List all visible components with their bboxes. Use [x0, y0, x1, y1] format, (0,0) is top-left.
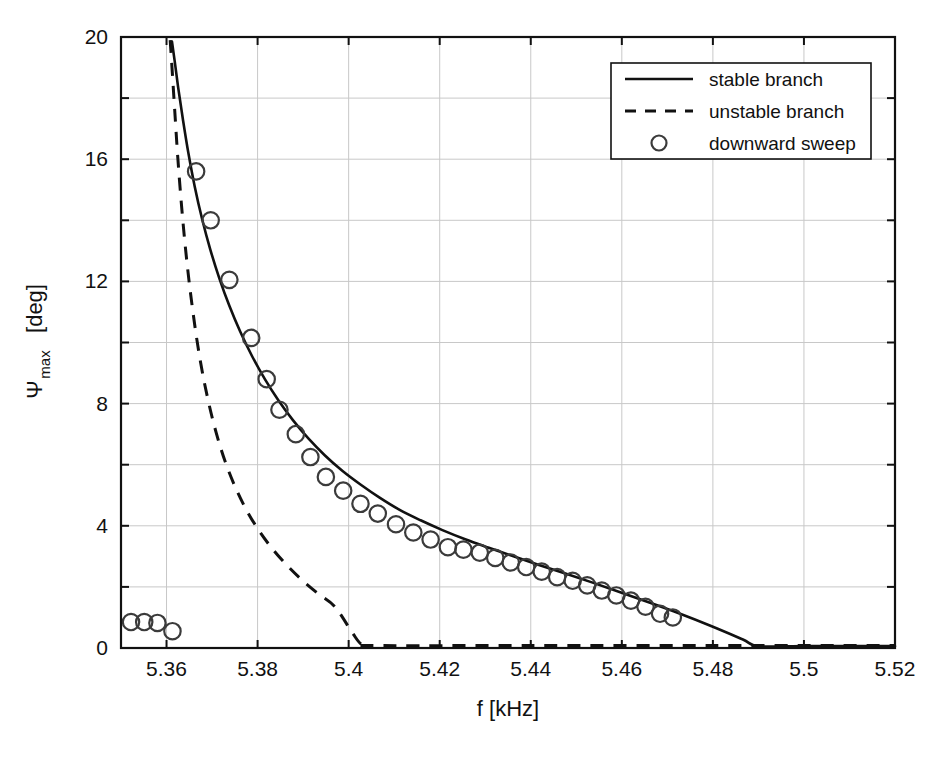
x-tick-label: 5.46 [601, 657, 642, 680]
psi-max-vs-frequency-chart: 5.365.385.45.425.445.465.485.55.52 04812… [0, 0, 951, 757]
x-tick-label: 5.38 [237, 657, 278, 680]
x-axis-tick-labels: 5.365.385.45.425.445.465.485.55.52 [146, 657, 915, 680]
legend: stable branchunstable branchdownward swe… [611, 63, 871, 159]
y-tick-label: 20 [85, 25, 108, 48]
x-tick-label: 5.44 [510, 657, 551, 680]
x-tick-label: 5.42 [419, 657, 460, 680]
y-tick-label: 12 [85, 269, 108, 292]
x-tick-label: 5.52 [875, 657, 916, 680]
y-tick-label: 16 [85, 147, 108, 170]
y-axis-title-unit: [deg] [22, 284, 47, 333]
legend-entry-label: downward sweep [709, 133, 856, 154]
x-tick-label: 5.5 [789, 657, 818, 680]
x-tick-label: 5.4 [334, 657, 364, 680]
y-axis-title-subscript: max [36, 350, 53, 379]
x-tick-label: 5.36 [146, 657, 187, 680]
y-tick-label: 8 [96, 392, 108, 415]
x-tick-label: 5.48 [692, 657, 733, 680]
legend-entry-label: stable branch [709, 69, 823, 90]
y-tick-label: 0 [96, 636, 108, 659]
x-axis-title: f [kHz] [477, 696, 539, 721]
legend-entry-label: unstable branch [709, 101, 844, 122]
y-tick-label: 4 [96, 514, 108, 537]
y-axis-title-symbol: Ψ [22, 380, 47, 398]
